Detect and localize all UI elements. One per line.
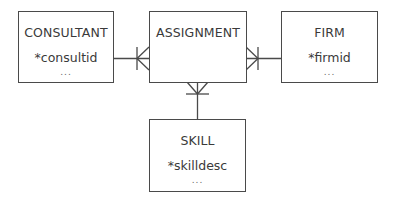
crows-foot-right-icon xyxy=(198,82,209,94)
crows-foot-upper-icon xyxy=(246,47,258,59)
entity-title: FIRM xyxy=(282,25,377,40)
crows-foot-lower-icon xyxy=(137,59,149,71)
entity-more-attributes: ... xyxy=(282,67,377,77)
entity-assignment: ASSIGNMENT xyxy=(149,11,247,83)
relationship-skill-assignment xyxy=(186,82,209,119)
entity-title: ASSIGNMENT xyxy=(150,25,246,40)
relationship-consultant-assignment xyxy=(113,47,149,70)
entity-title: SKILL xyxy=(150,133,245,148)
crows-foot-upper-icon xyxy=(137,47,149,59)
entity-attribute: *firmid xyxy=(282,50,377,65)
entity-skill: SKILL *skilldesc ... xyxy=(149,119,246,192)
entity-attribute: *skilldesc xyxy=(150,158,245,173)
crows-foot-left-icon xyxy=(187,82,198,94)
entity-consultant: CONSULTANT *consultid ... xyxy=(18,11,114,83)
entity-firm: FIRM *firmid ... xyxy=(281,11,378,83)
relationship-firm-assignment xyxy=(246,47,281,70)
entity-more-attributes: ... xyxy=(150,175,245,185)
entity-attribute: *consultid xyxy=(19,50,113,65)
entity-title: CONSULTANT xyxy=(19,25,113,40)
entity-more-attributes: ... xyxy=(19,67,113,77)
crows-foot-lower-icon xyxy=(246,59,258,71)
